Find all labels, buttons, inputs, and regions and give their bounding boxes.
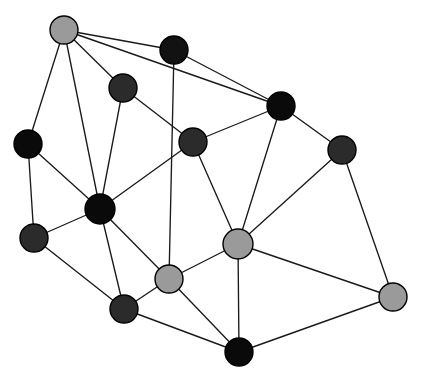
graph-edge: [100, 142, 193, 209]
graph-edge: [124, 309, 239, 352]
graph-edge: [174, 50, 281, 106]
graph-canvas: [0, 0, 421, 381]
graph-node-n5[interactable]: [179, 128, 207, 156]
graph-edge: [169, 279, 239, 352]
graph-edge: [28, 30, 64, 144]
graph-edge: [342, 150, 393, 297]
graph-node-n10[interactable]: [155, 265, 183, 293]
graph-edge: [100, 88, 123, 209]
graph-node-n9[interactable]: [223, 229, 253, 259]
graph-node-n6[interactable]: [328, 136, 356, 164]
graph-node-n1[interactable]: [160, 36, 188, 64]
graph-edge: [193, 142, 238, 244]
graph-edge: [238, 244, 393, 297]
graph-node-n2[interactable]: [109, 74, 137, 102]
graph-edge: [239, 297, 393, 352]
graph-node-n3[interactable]: [267, 92, 295, 120]
graph-edge: [238, 244, 239, 352]
graph-node-n11[interactable]: [379, 283, 407, 311]
graph-node-n0[interactable]: [50, 16, 78, 44]
graph-edge: [238, 150, 342, 244]
graph-node-n8[interactable]: [20, 224, 48, 252]
edge-layer: [28, 30, 393, 352]
graph-node-n7[interactable]: [85, 194, 115, 224]
graph-node-n4[interactable]: [14, 130, 42, 158]
graph-node-n13[interactable]: [225, 338, 253, 366]
graph-edge: [169, 50, 174, 279]
graph-node-n12[interactable]: [110, 295, 138, 323]
graph-edge: [238, 106, 281, 244]
graph-edge: [34, 238, 124, 309]
graph-diagram: [0, 0, 421, 381]
